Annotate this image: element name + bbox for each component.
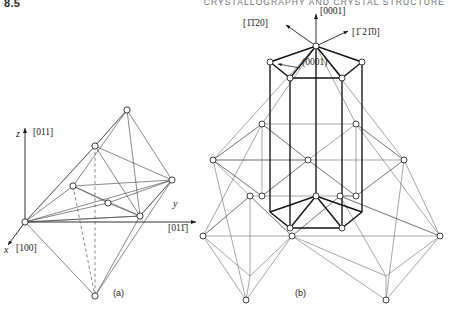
axis-symbol-z: z bbox=[16, 128, 20, 139]
figure-page: 8.5 CRYSTALLOGRAPHY AND CRYSTAL STRUCTUR… bbox=[0, 0, 451, 310]
axis-symbol-x: x bbox=[4, 244, 8, 255]
figure-artwork bbox=[0, 0, 451, 310]
direction-0001: [0001] bbox=[320, 6, 345, 16]
direction-1120bar: [1̄1̄20] bbox=[243, 18, 268, 28]
axis-index-z: [011] bbox=[33, 127, 53, 137]
direction-1210bar: [1̄ 21̄0] bbox=[352, 27, 380, 37]
hexagonal-prism bbox=[270, 46, 362, 228]
plane-0001: (0001) bbox=[302, 57, 327, 67]
axis-index-y: [011̄] bbox=[168, 223, 188, 233]
subfigure-caption-b: (b) bbox=[295, 288, 306, 298]
axis-index-x: [100] bbox=[16, 243, 37, 253]
subfigure-caption-a: (a) bbox=[113, 288, 124, 298]
axis-symbol-y: y bbox=[173, 198, 177, 209]
